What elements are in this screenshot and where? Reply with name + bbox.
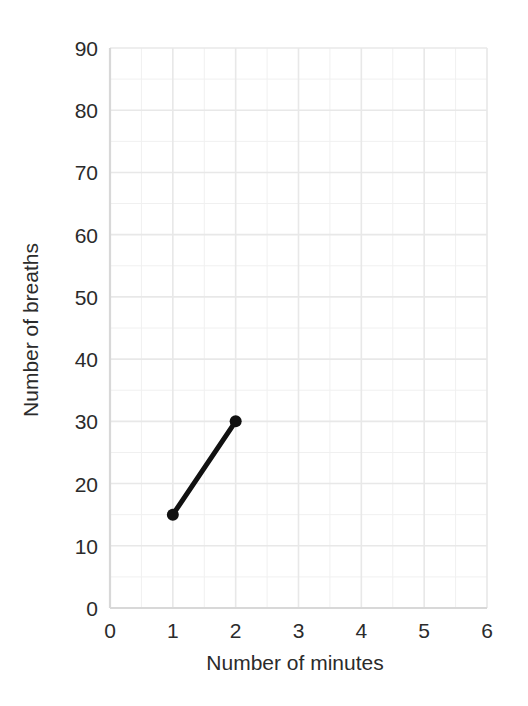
x-axis-title: Number of minutes [206, 651, 383, 674]
y-tick-label: 70 [75, 161, 98, 184]
y-tick-label: 20 [75, 473, 98, 496]
y-tick-label: 90 [75, 37, 98, 60]
y-tick-label: 40 [75, 348, 98, 371]
y-tick-label: 30 [75, 410, 98, 433]
x-tick-label: 1 [167, 619, 179, 642]
x-tick-label: 3 [293, 619, 305, 642]
y-tick-label: 50 [75, 286, 98, 309]
y-tick-label: 60 [75, 224, 98, 247]
line-chart: 0123456 0102030405060708090 Number of mi… [0, 0, 528, 706]
x-tick-label: 5 [418, 619, 430, 642]
y-tick-label: 0 [86, 597, 98, 620]
data-point-marker [167, 509, 179, 521]
x-tick-label: 4 [355, 619, 367, 642]
y-axis-title: Number of breaths [19, 243, 42, 417]
y-tick-label: 80 [75, 99, 98, 122]
x-tick-label: 2 [230, 619, 242, 642]
y-tick-label: 10 [75, 535, 98, 558]
x-tick-label: 0 [104, 619, 116, 642]
chart-container: 0123456 0102030405060708090 Number of mi… [0, 0, 528, 706]
x-tick-label: 6 [481, 619, 493, 642]
data-point-marker [230, 415, 242, 427]
